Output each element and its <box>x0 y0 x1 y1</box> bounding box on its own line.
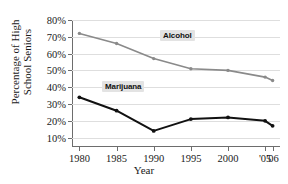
y-axis-tick-label: 70% <box>47 31 66 42</box>
x-axis-tick <box>228 146 229 151</box>
data-point <box>115 42 118 45</box>
y-axis-tick-label: 80% <box>47 15 66 26</box>
x-axis-line <box>72 146 280 147</box>
chart-title-fragment <box>148 0 258 3</box>
data-point <box>115 109 119 113</box>
y-axis-tick-label: 10% <box>47 132 66 143</box>
y-axis-tick-label: 20% <box>47 115 66 126</box>
x-axis-tick <box>265 146 266 151</box>
y-axis-tick-label: 40% <box>47 82 66 93</box>
y-axis-title: Percentage of High School Seniors <box>9 0 33 132</box>
x-axis-tick-label: 1985 <box>106 153 127 164</box>
data-point <box>226 69 229 72</box>
data-point <box>263 75 266 78</box>
data-point <box>271 79 274 82</box>
x-axis-tick-label: '06 <box>266 153 278 164</box>
y-axis-tick-label: 30% <box>47 99 66 110</box>
x-axis-tick <box>154 146 155 151</box>
data-point <box>263 119 267 123</box>
series-label-marijuana: Marijuana <box>102 81 144 92</box>
data-point <box>189 67 192 70</box>
x-axis-tick-label: 1990 <box>143 153 164 164</box>
y-axis-title-line-1: Percentage of High <box>9 0 21 132</box>
y-axis-tick-label: 50% <box>47 65 66 76</box>
series-line-marijuana <box>79 97 272 131</box>
x-axis-tick <box>79 146 80 151</box>
data-point <box>271 124 275 128</box>
data-point <box>78 32 81 35</box>
data-point <box>189 117 193 121</box>
x-axis-tick-label: 1995 <box>180 153 201 164</box>
series-label-alcohol: Alcohol <box>160 30 195 41</box>
y-axis-title-line-2: School Seniors <box>21 0 33 132</box>
x-axis-tick-label: 2000 <box>218 153 239 164</box>
data-point <box>226 116 230 120</box>
x-axis-tick <box>273 146 274 151</box>
data-point <box>152 57 155 60</box>
x-axis-tick <box>117 146 118 151</box>
data-point <box>152 129 156 133</box>
line-chart: Percentage of High School Seniors 10%20%… <box>0 0 288 184</box>
data-point <box>78 95 82 99</box>
x-axis-tick <box>191 146 192 151</box>
x-axis-title: Year <box>0 164 288 176</box>
plot-area: 10%20%30%40%50%60%70%80% 198019851990199… <box>72 20 280 146</box>
y-axis-tick-label: 60% <box>47 48 66 59</box>
x-axis-tick-label: 1980 <box>69 153 90 164</box>
